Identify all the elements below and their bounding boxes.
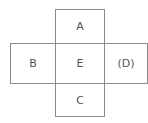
vertical-strip-bottom-edge — [55, 116, 105, 117]
cell-right: (D) — [105, 44, 147, 83]
cell-bottom: C — [56, 84, 104, 116]
cell-top: A — [56, 10, 104, 43]
horizontal-strip-right-edge — [147, 43, 148, 84]
cell-center: E — [56, 44, 104, 83]
cell-left: B — [11, 44, 55, 83]
